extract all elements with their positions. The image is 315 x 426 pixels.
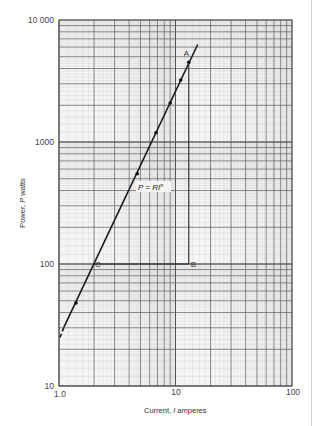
x-axis-prefix: Current, <box>144 406 173 415</box>
formula-label: P = RIn <box>138 182 163 192</box>
y-axis-unit: watts <box>18 178 27 198</box>
formula-exponent: n <box>160 182 163 188</box>
x-tick-1: 1.0 <box>54 389 66 399</box>
data-point <box>154 131 158 135</box>
y-axis-prefix: Power, <box>18 203 27 228</box>
formula-text: P = RI <box>138 183 161 192</box>
y-axis-label: Power, P watts <box>18 178 27 228</box>
data-point <box>168 101 172 105</box>
y-tick-1000: 1000 <box>35 137 54 147</box>
data-point <box>74 301 78 305</box>
x-tick-10: 10 <box>171 387 181 397</box>
point-b-label: B <box>191 260 196 269</box>
x-axis-unit: amperes <box>175 406 207 415</box>
page-edge-rule <box>311 0 312 426</box>
major-grid <box>59 20 292 386</box>
point-a-label: A <box>184 49 190 58</box>
data-point <box>135 172 139 176</box>
data-point <box>187 61 191 65</box>
data-point <box>179 78 183 82</box>
x-tick-100: 100 <box>286 387 300 397</box>
log-log-chart: A B C P = RIn 10 000 1000 100 10 1.0 10 … <box>0 0 315 426</box>
y-tick-10000: 10 000 <box>28 15 54 25</box>
point-c-label: C <box>95 260 101 269</box>
y-tick-100: 100 <box>40 259 54 269</box>
y-tick-10: 10 <box>45 381 55 391</box>
x-axis-label: Current, I amperes <box>144 406 207 415</box>
